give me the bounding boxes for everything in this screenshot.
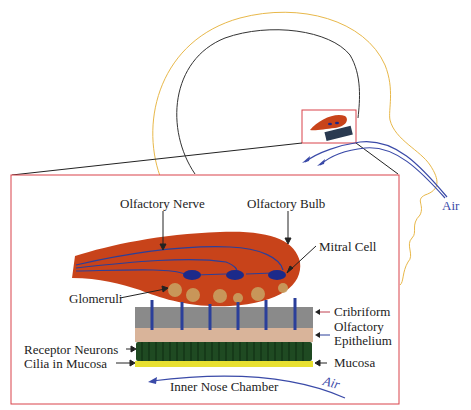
label-olfactory-epithelium-1: Olfactory <box>334 320 384 334</box>
label-receptor-neurons: Receptor Neurons <box>24 343 118 357</box>
mitral-cell-1 <box>183 270 201 280</box>
label-mitral-cell: Mitral Cell <box>319 240 376 254</box>
epithelium-layer <box>135 328 313 342</box>
label-air-outer: Air <box>442 199 459 213</box>
mini-bulb-icon <box>310 115 347 130</box>
label-inner-nose-chamber: Inner Nose Chamber <box>170 380 278 394</box>
label-cribriform: Cribriform <box>334 305 390 319</box>
mitral-cell-2 <box>226 270 244 280</box>
label-cilia-in-mucosa: Cilia in Mucosa <box>24 357 107 371</box>
label-mucosa: Mucosa <box>334 356 375 370</box>
label-olfactory-nerve: Olfactory Nerve <box>120 197 205 211</box>
label-olfactory-epithelium-2: Epithelium <box>334 334 392 348</box>
brain-outline <box>177 30 360 174</box>
label-olfactory-bulb: Olfactory Bulb <box>247 197 325 211</box>
mucosa-layer <box>135 361 313 367</box>
receptor-neurons-layer <box>136 342 312 361</box>
cribriform-layer <box>135 307 313 328</box>
label-glomeruli: Glomeruli <box>69 292 122 306</box>
mitral-cell-3 <box>268 270 286 280</box>
